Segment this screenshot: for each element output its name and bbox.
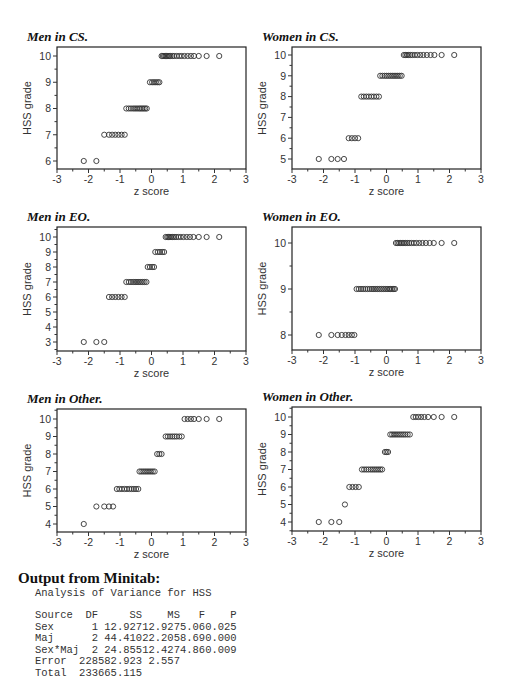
data-points	[316, 240, 457, 337]
y-tick-label: 6	[45, 155, 51, 167]
x-tick-label: 2	[447, 354, 453, 366]
col-header-ss: SS	[98, 610, 142, 622]
y-tick-label: 10	[39, 413, 51, 425]
data-point	[122, 132, 127, 137]
anova-title: Analysis of Variance for HSS	[35, 587, 211, 599]
ss-cell: 582.923	[98, 656, 142, 668]
x-axis: -3-2-10123z score	[52, 532, 249, 560]
x-tick-label: -2	[319, 173, 328, 185]
data-point	[204, 234, 209, 239]
x-axis: -3-2-10123z score	[52, 169, 249, 197]
x-tick-label: 2	[212, 355, 218, 367]
x-tick-label: 3	[478, 535, 484, 547]
y-tick-label: 7	[45, 276, 51, 288]
data-point	[439, 52, 444, 57]
x-axis: -3-2-10123z score	[287, 531, 484, 559]
x-tick-label: 2	[447, 173, 453, 185]
y-tick-label: 10	[274, 411, 286, 423]
y-tick-label: 4	[45, 518, 51, 530]
y-tick-label: 9	[45, 246, 51, 258]
x-tick-label: -3	[287, 535, 296, 547]
x-tick-label: -2	[319, 535, 328, 547]
x-tick-label: 2	[212, 536, 218, 548]
p-cell: 0.000	[205, 633, 237, 645]
y-tick-label: 9	[45, 76, 51, 88]
data-point	[94, 339, 99, 344]
y-tick-label: 5	[280, 153, 286, 165]
plot-title: Women in CS.	[262, 29, 339, 44]
y-tick-label: 4	[280, 516, 286, 528]
data-point	[217, 416, 222, 421]
plot-men-eo: Men in EO.-3-2-10123z score345678910HSS …	[21, 209, 249, 379]
x-tick-label: 1	[180, 355, 186, 367]
minitab-output: Output from Minitab: Analysis of Varianc…	[18, 570, 211, 599]
x-tick-label: -3	[52, 355, 61, 367]
plot-frame	[292, 47, 481, 169]
ss-cell: 665.115	[98, 668, 142, 680]
anova-header-row: Source DF SS MS F P	[35, 610, 237, 622]
data-points	[316, 52, 457, 161]
x-tick-label: 0	[384, 354, 390, 366]
data-point	[81, 521, 86, 526]
y-tick-label: 6	[45, 483, 51, 495]
plot-men-other: Men in Other.-3-2-10123z score45678910HS…	[21, 391, 249, 560]
x-axis: -3-2-10123z score	[52, 351, 249, 379]
x-axis: -3-2-10123z score	[287, 350, 484, 378]
f-cell: 8.69	[180, 633, 205, 645]
x-tick-label: -3	[52, 536, 61, 548]
x-tick-label: -3	[287, 354, 296, 366]
plot-frame	[57, 47, 246, 169]
y-tick-label: 8	[280, 446, 286, 458]
data-point	[432, 52, 437, 57]
x-tick-label: 3	[478, 354, 484, 366]
x-tick-label: 3	[478, 173, 484, 185]
y-tick-label: 7	[45, 129, 51, 141]
data-point	[329, 332, 334, 337]
y-tick-label: 6	[45, 291, 51, 303]
normal-probability-plots: Men in CS.-3-2-10123z score678910HSS gra…	[0, 0, 510, 560]
x-tick-label: 1	[415, 173, 421, 185]
f-cell	[180, 656, 205, 668]
p-cell	[205, 656, 237, 668]
x-axis-label: z score	[134, 548, 169, 560]
y-tick-label: 3	[45, 336, 51, 348]
x-tick-label: 3	[243, 536, 249, 548]
x-tick-label: 2	[447, 535, 453, 547]
x-tick-label: -1	[115, 173, 124, 185]
y-tick-label: 9	[280, 70, 286, 82]
anova-table: Source DF SS MS F P Sex 1 12.927 12.927 …	[35, 610, 237, 679]
data-point	[329, 156, 334, 161]
y-axis: 8910HSS grade	[256, 237, 292, 341]
x-tick-label: -3	[287, 173, 296, 185]
data-point	[335, 156, 340, 161]
source-cell: Maj	[35, 633, 79, 645]
x-tick-label: 1	[180, 536, 186, 548]
data-points	[81, 53, 222, 163]
data-point	[102, 339, 107, 344]
data-point	[342, 502, 347, 507]
data-point	[217, 53, 222, 58]
df-cell: 233	[79, 668, 98, 680]
x-tick-label: -2	[84, 536, 93, 548]
y-tick-label: 9	[280, 428, 286, 440]
data-point	[94, 504, 99, 509]
data-point	[425, 414, 430, 419]
y-axis-label: HSS grade	[256, 442, 268, 496]
plot-women-eo: Women in EO.-3-2-10123z score8910HSS gra…	[256, 209, 484, 378]
y-tick-label: 8	[280, 329, 286, 341]
y-tick-label: 5	[45, 306, 51, 318]
ms-cell	[142, 668, 180, 680]
ms-cell: 2.557	[142, 656, 180, 668]
x-tick-label: -1	[350, 535, 359, 547]
source-cell: Total	[35, 668, 79, 680]
x-tick-label: -1	[350, 173, 359, 185]
y-tick-label: 8	[45, 102, 51, 114]
y-tick-label: 6	[280, 132, 286, 144]
data-point	[341, 156, 346, 161]
plot-title: Men in CS.	[26, 29, 88, 44]
x-tick-label: 3	[243, 355, 249, 367]
x-tick-label: -2	[319, 354, 328, 366]
data-points	[81, 234, 222, 344]
data-point	[94, 158, 99, 163]
x-tick-label: -1	[350, 354, 359, 366]
